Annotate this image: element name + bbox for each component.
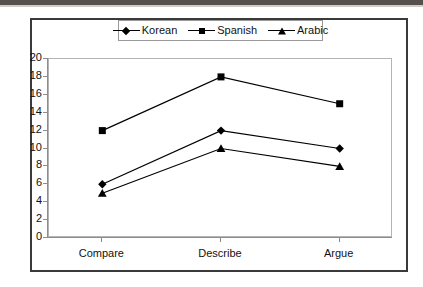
triangle-marker-icon [268, 26, 295, 36]
data-point-marker [335, 144, 343, 152]
plot-series-svg [49, 59, 393, 238]
series-line [102, 149, 339, 194]
y-axis-tick-label: 4 [16, 195, 42, 206]
data-point-marker [336, 100, 343, 107]
x-axis-tick [220, 238, 221, 242]
legend-entry-korean[interactable]: Korean [113, 25, 177, 36]
page-scan-artifact-fade [0, 5, 423, 7]
x-axis-tick-label: Argue [324, 248, 353, 259]
y-axis-tick [43, 76, 47, 77]
y-axis-tick-label: 14 [16, 106, 42, 117]
series-spanish [99, 73, 343, 134]
y-axis-tick-label: 20 [16, 52, 42, 63]
data-point-marker [98, 189, 107, 197]
y-axis-tick-label: 8 [16, 159, 42, 170]
series-line [102, 131, 339, 185]
data-point-marker [218, 73, 225, 80]
series-line [102, 77, 339, 131]
y-axis-tick-label: 10 [16, 142, 42, 153]
y-axis-tick [43, 237, 47, 238]
y-axis-tick [43, 94, 47, 95]
y-axis-tick [43, 219, 47, 220]
y-axis-tick-label: 2 [16, 213, 42, 224]
data-point-marker [217, 144, 226, 152]
x-axis-tick-label: Describe [198, 248, 241, 259]
y-axis-tick-label: 12 [16, 124, 42, 135]
x-axis-tick [101, 238, 102, 242]
square-marker-icon [188, 26, 215, 36]
y-axis-tick [43, 112, 47, 113]
series-korean [98, 126, 344, 188]
x-axis-tick [339, 238, 340, 242]
y-axis-tick [43, 148, 47, 149]
legend-label-spanish: Spanish [217, 25, 257, 36]
chart-legend: Korean Spanish Arabic [118, 20, 323, 41]
legend-label-korean: Korean [142, 25, 177, 36]
y-axis-tick [43, 130, 47, 131]
x-axis-tick-label: Compare [79, 248, 124, 259]
y-axis-tick [43, 165, 47, 166]
y-axis-tick [43, 183, 47, 184]
y-axis-tick-label: 0 [16, 231, 42, 242]
y-axis-tick [43, 58, 47, 59]
triangle-glyph [278, 27, 286, 34]
series-arabic [98, 144, 344, 197]
plot-area [48, 58, 392, 237]
legend-entry-arabic[interactable]: Arabic [268, 25, 328, 36]
y-axis-tick-label: 16 [16, 88, 42, 99]
data-point-marker [99, 127, 106, 134]
y-axis-tick-label: 18 [16, 70, 42, 81]
square-glyph [199, 28, 205, 34]
y-axis-labels: 02468101214161820 [12, 0, 42, 287]
data-point-marker [217, 126, 225, 134]
legend-label-arabic: Arabic [297, 25, 328, 36]
diamond-glyph [122, 26, 130, 34]
diamond-marker-icon [113, 26, 140, 36]
y-axis-tick [43, 201, 47, 202]
legend-entry-spanish[interactable]: Spanish [188, 25, 257, 36]
data-point-marker [98, 180, 106, 188]
y-axis-tick-label: 6 [16, 177, 42, 188]
